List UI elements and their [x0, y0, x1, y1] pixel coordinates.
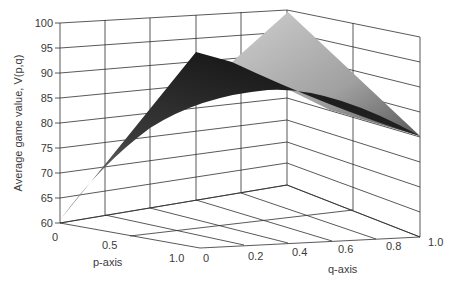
- z-tick-label: 65: [41, 192, 53, 204]
- z-tick-label: 80: [41, 117, 53, 129]
- q-tick-label: 0.4: [292, 246, 307, 258]
- p-axis: 0 0.5 1.0 p-axis: [52, 231, 184, 268]
- p-tick-label: 0: [52, 231, 58, 243]
- q-tick-label: 1.0: [428, 236, 443, 248]
- q-tick-label: 0.6: [338, 243, 353, 255]
- z-tick-label: 100: [35, 17, 53, 29]
- z-tick-label: 95: [41, 42, 53, 54]
- z-tick-label: 90: [41, 67, 53, 79]
- q-tick-label: 0: [203, 252, 209, 264]
- z-tick-label: 70: [41, 167, 53, 179]
- q-tick-label: 0.8: [386, 240, 401, 252]
- surface: [60, 12, 420, 220]
- p-tick-label: 1.0: [169, 252, 184, 264]
- q-axis-label: q-axis: [328, 263, 358, 275]
- z-axis-label: Average game value, V(p,q): [12, 55, 24, 192]
- z-axis: 100 95 90 85 80 75 70 65 60 Average game…: [12, 17, 60, 229]
- z-tick-label: 75: [41, 142, 53, 154]
- q-tick-label: 0.2: [248, 250, 263, 262]
- surface-chart: 100 95 90 85 80 75 70 65 60 Average game…: [0, 0, 457, 286]
- z-tick-label: 85: [41, 92, 53, 104]
- z-tick-label: 60: [41, 217, 53, 229]
- p-tick-label: 0.5: [102, 239, 117, 251]
- p-axis-label: p-axis: [93, 256, 123, 268]
